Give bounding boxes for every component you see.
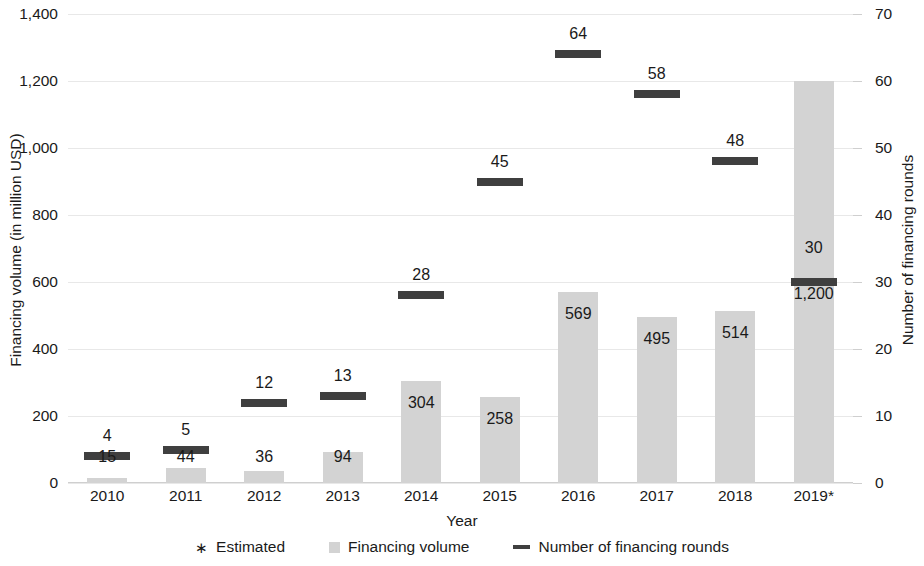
- y-axis-right-tick-label: 40: [875, 207, 892, 223]
- legend-label: Estimated: [216, 538, 285, 556]
- gridline: [68, 81, 853, 82]
- round-label-2016: 64: [528, 26, 628, 42]
- round-label-2017: 58: [607, 66, 707, 82]
- y-axis-left-tick-label: 1,200: [19, 73, 58, 89]
- bar-2011: [166, 468, 206, 483]
- round-label-2013: 13: [293, 368, 393, 384]
- round-label-2015: 45: [450, 154, 550, 170]
- gridline: [68, 483, 853, 484]
- bar-label-2014: 304: [371, 395, 471, 411]
- gridline: [68, 14, 853, 15]
- round-marker-2016: [555, 50, 601, 58]
- bar-label-2013: 94: [293, 449, 393, 465]
- y-axis-right-ticklet: [853, 483, 862, 484]
- x-axis-title: Year: [0, 512, 924, 530]
- y-axis-right-tick-label: 50: [875, 140, 892, 156]
- legend-label: Financing volume: [348, 538, 469, 556]
- y-axis-right-tick-label: 70: [875, 6, 892, 22]
- y-axis-left-tick-label: 1,400: [19, 6, 58, 22]
- bar-label-2018: 514: [685, 325, 785, 341]
- legend-item-number-of-financing-rounds[interactable]: Number of financing rounds: [513, 538, 728, 556]
- round-label-2018: 48: [685, 133, 785, 149]
- y-axis-left-title: Financing volume (in million USD): [7, 133, 25, 366]
- financing-volume-combo-chart: Financing volume (in million USD) Number…: [0, 0, 924, 566]
- chart-legend: ∗EstimatedFinancing volumeNumber of fina…: [0, 538, 924, 556]
- bar-2010: [87, 478, 127, 483]
- y-axis-left-tick-label: 400: [32, 341, 58, 357]
- gridline: [68, 215, 853, 216]
- round-label-2014: 28: [371, 267, 471, 283]
- y-axis-right-tick-label: 20: [875, 341, 892, 357]
- asterisk-marker-icon: ∗: [195, 540, 208, 555]
- y-axis-left-tick-label: 600: [32, 274, 58, 290]
- legend-label: Number of financing rounds: [538, 538, 728, 556]
- y-axis-right-tick-label: 0: [875, 475, 884, 491]
- y-axis-right-tick-label: 10: [875, 408, 892, 424]
- round-marker-2018: [712, 157, 758, 165]
- y-axis-left-tick-label: 1,000: [19, 140, 58, 156]
- round-label-2011: 5: [136, 422, 236, 438]
- y-axis-right-title: Number of financing rounds: [899, 155, 917, 345]
- bar-label-2015: 258: [450, 411, 550, 427]
- x-tick-2019-est: 2019*: [764, 487, 864, 505]
- legend-item-financing-volume[interactable]: Financing volume: [329, 538, 469, 556]
- y-axis-right-ticklet: [853, 416, 862, 417]
- gray-square-swatch-icon: [329, 542, 340, 553]
- bar-2012: [244, 471, 284, 483]
- x-axis-tick-labels: 2010201120122013201420152016201720182019…: [68, 487, 853, 511]
- y-axis-left-tick-label: 200: [32, 408, 58, 424]
- round-marker-2012: [241, 399, 287, 407]
- round-marker-2013: [320, 392, 366, 400]
- y-axis-right-ticklet: [853, 349, 862, 350]
- bar-label-2016: 569: [528, 306, 628, 322]
- y-axis-right-ticklet: [853, 148, 862, 149]
- round-label-2019-est: 30: [764, 240, 864, 256]
- round-marker-2015: [477, 178, 523, 186]
- y-axis-right-ticklet: [853, 81, 862, 82]
- y-axis-right-ticklet: [853, 282, 862, 283]
- y-axis-right-tick-label: 30: [875, 274, 892, 290]
- bar-label-2019-est: 1,200: [764, 286, 864, 302]
- y-axis-left-tick-label: 800: [32, 207, 58, 223]
- y-axis-right-ticklet: [853, 14, 862, 15]
- dark-dash-swatch-icon: [513, 545, 530, 549]
- y-axis-right-ticklet: [853, 215, 862, 216]
- round-marker-2014: [398, 291, 444, 299]
- legend-item-estimated[interactable]: ∗Estimated: [195, 538, 285, 556]
- plot-area: 02004006008001,0001,2001,400 01020304050…: [68, 14, 853, 483]
- round-marker-2017: [634, 90, 680, 98]
- y-axis-right-tick-label: 60: [875, 73, 892, 89]
